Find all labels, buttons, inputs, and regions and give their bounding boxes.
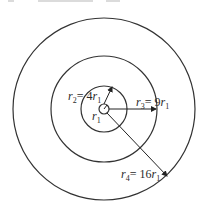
label-r4: r4= 16r1 bbox=[121, 167, 160, 183]
top-caption-fragment bbox=[8, 0, 120, 2]
arrow-r1 bbox=[104, 105, 107, 109]
label-r3: r3= 9r1 bbox=[136, 95, 169, 111]
label-r2: r2= 4r1 bbox=[68, 89, 101, 105]
arrow-r2 bbox=[104, 87, 112, 104]
concentric-circles-diagram: r2= 4r1 r1 r3= 9r1 r4= 16r1 bbox=[0, 0, 207, 217]
